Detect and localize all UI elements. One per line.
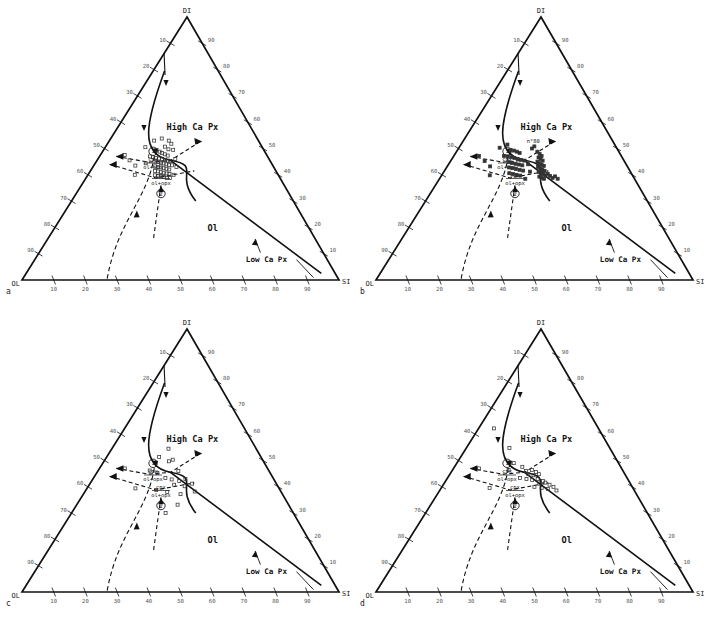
svg-text:60: 60	[77, 168, 84, 174]
svg-text:30: 30	[653, 195, 660, 201]
svg-text:80: 80	[626, 598, 633, 604]
svg-text:Ol: Ol	[208, 535, 218, 545]
svg-text:Low Ca Px: Low Ca Px	[600, 567, 642, 576]
svg-text:80: 80	[272, 598, 279, 604]
svg-text:2: 2	[513, 190, 517, 197]
svg-text:10: 10	[159, 349, 166, 355]
svg-text:High Ca Px: High Ca Px	[167, 122, 219, 132]
svg-text:80: 80	[44, 221, 51, 227]
svg-text:70: 70	[592, 401, 599, 407]
svg-text:20: 20	[143, 63, 150, 69]
svg-text:10: 10	[513, 37, 520, 43]
svg-text:80: 80	[577, 375, 584, 381]
svg-text:60: 60	[253, 116, 260, 122]
svg-text:40: 40	[638, 480, 645, 486]
svg-text:50: 50	[93, 454, 100, 460]
svg-text:90: 90	[27, 247, 34, 253]
svg-text:70: 70	[592, 89, 599, 95]
svg-text:1: 1	[505, 459, 509, 466]
svg-text:30: 30	[126, 89, 133, 95]
svg-text:ol+opx: ol+opx	[497, 476, 517, 483]
svg-text:High Ca Px: High Ca Px	[521, 434, 573, 444]
svg-text:10: 10	[513, 349, 520, 355]
svg-text:High Ca Px: High Ca Px	[521, 122, 573, 132]
svg-text:80: 80	[626, 286, 633, 292]
svg-text:2: 2	[513, 502, 517, 509]
svg-text:60: 60	[563, 598, 570, 604]
svg-text:SI: SI	[342, 590, 350, 598]
svg-text:90: 90	[562, 37, 569, 43]
svg-text:30: 30	[480, 89, 487, 95]
svg-text:30: 30	[299, 507, 306, 513]
svg-text:70: 70	[241, 598, 248, 604]
svg-text:60: 60	[431, 168, 438, 174]
svg-text:70: 70	[60, 507, 67, 513]
svg-text:2: 2	[159, 190, 163, 197]
svg-text:30: 30	[114, 286, 121, 292]
svg-text:80: 80	[272, 286, 279, 292]
svg-text:60: 60	[563, 286, 570, 292]
panel-b-svg: DIOLSI1020304050607080901020304050607080…	[354, 0, 709, 311]
svg-text:40: 40	[499, 598, 506, 604]
svg-text:SI: SI	[342, 278, 350, 286]
svg-text:80: 80	[44, 533, 51, 539]
panel-a: DIOLSI1020304050607080901020304050607080…	[0, 0, 355, 311]
panel-d: DIOLSI1020304050607080901020304050607080…	[354, 312, 709, 623]
svg-text:Ol: Ol	[208, 223, 218, 233]
svg-text:DI: DI	[183, 7, 191, 15]
svg-text:30: 30	[299, 195, 306, 201]
svg-text:60: 60	[77, 480, 84, 486]
svg-text:80: 80	[223, 63, 230, 69]
panel-d-svg: DIOLSI1020304050607080901020304050607080…	[354, 312, 709, 623]
svg-text:1: 1	[151, 459, 155, 466]
svg-text:80: 80	[223, 375, 230, 381]
svg-text:20: 20	[314, 533, 321, 539]
svg-text:10: 10	[50, 286, 57, 292]
svg-text:40: 40	[284, 168, 291, 174]
svg-text:70: 70	[595, 286, 602, 292]
svg-text:Low Ca Px: Low Ca Px	[600, 255, 642, 264]
svg-text:n°80: n°80	[527, 138, 540, 144]
svg-text:50: 50	[269, 142, 276, 148]
svg-text:50: 50	[93, 142, 100, 148]
svg-text:cpx: cpx	[510, 484, 520, 491]
svg-text:60: 60	[607, 428, 614, 434]
svg-text:70: 70	[60, 195, 67, 201]
svg-text:70: 70	[595, 598, 602, 604]
svg-text:80: 80	[577, 63, 584, 69]
svg-text:SI: SI	[696, 590, 704, 598]
svg-text:10: 10	[159, 37, 166, 43]
svg-text:DI: DI	[537, 319, 545, 327]
svg-text:Ol: Ol	[562, 223, 572, 233]
svg-text:90: 90	[208, 37, 215, 43]
panel-c-svg: DIOLSI1020304050607080901020304050607080…	[0, 312, 355, 623]
svg-text:70: 70	[414, 195, 421, 201]
svg-text:40: 40	[638, 168, 645, 174]
panel-letter-d: d	[360, 599, 365, 608]
panel-b: DIOLSI1020304050607080901020304050607080…	[354, 0, 709, 311]
svg-text:OL: OL	[366, 280, 374, 288]
panel-letter-b: b	[360, 287, 365, 296]
svg-text:10: 10	[329, 247, 336, 253]
svg-text:50: 50	[177, 598, 184, 604]
svg-text:ol+opx: ol+opx	[151, 180, 171, 187]
panel-a-svg: DIOLSI1020304050607080901020304050607080…	[0, 0, 355, 311]
svg-text:50: 50	[447, 454, 454, 460]
svg-text:20: 20	[143, 375, 150, 381]
svg-text:40: 40	[499, 286, 506, 292]
svg-text:90: 90	[208, 349, 215, 355]
svg-text:40: 40	[464, 428, 471, 434]
svg-text:50: 50	[623, 142, 630, 148]
svg-text:40: 40	[110, 116, 117, 122]
svg-text:10: 10	[683, 559, 690, 565]
svg-text:40: 40	[464, 116, 471, 122]
svg-text:20: 20	[82, 286, 89, 292]
svg-text:70: 70	[241, 286, 248, 292]
svg-text:30: 30	[653, 507, 660, 513]
svg-text:40: 40	[284, 480, 291, 486]
svg-text:20: 20	[314, 221, 321, 227]
svg-text:10: 10	[683, 247, 690, 253]
svg-text:10: 10	[329, 559, 336, 565]
svg-text:20: 20	[436, 598, 443, 604]
svg-text:ol+opx: ol+opx	[505, 180, 525, 187]
